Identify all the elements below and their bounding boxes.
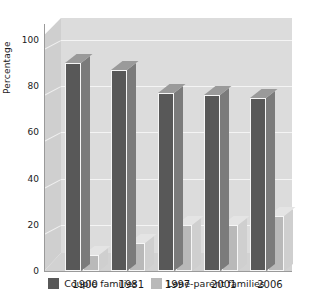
bar-2006-couple xyxy=(250,98,266,271)
legend-item-lone-parent-families[interactable]: Lone-parent families xyxy=(151,278,265,289)
legend-item-couple-families[interactable]: Couple families xyxy=(48,278,137,289)
bar-side-face xyxy=(192,218,201,271)
plot-area: 020406080100 19001981199720012006 xyxy=(44,18,292,258)
bar-side-face xyxy=(266,91,275,271)
bar-side-face xyxy=(127,63,136,271)
bar-side-face xyxy=(81,56,90,271)
legend-label: Couple families xyxy=(64,278,137,289)
y-axis-title: Percentage xyxy=(2,41,12,94)
y-tick-label: 20 xyxy=(28,220,39,229)
chart-legend: Couple familiesLone-parent families xyxy=(0,278,313,289)
bar-front-face xyxy=(158,93,174,271)
bar-2001-couple xyxy=(204,95,220,271)
gridline xyxy=(61,40,292,41)
bar-front-face xyxy=(250,98,266,271)
y-tick-label: 40 xyxy=(28,174,39,183)
y-tick-label: 0 xyxy=(33,267,39,276)
bar-chart: 020406080100 19001981199720012006 Percen… xyxy=(0,0,313,301)
bar-1997-couple xyxy=(158,93,174,271)
y-tick-label: 60 xyxy=(28,128,39,137)
bar-front-face xyxy=(65,63,81,271)
bar-1981-couple xyxy=(111,70,127,271)
bar-side-face xyxy=(238,218,247,271)
y-tick-label: 80 xyxy=(28,82,39,91)
bar-front-face xyxy=(111,70,127,271)
bar-1900-couple xyxy=(65,63,81,271)
y-tick-label: 100 xyxy=(22,36,39,45)
bar-front-face xyxy=(204,95,220,271)
legend-swatch-icon xyxy=(151,278,162,289)
x-axis-line xyxy=(44,271,292,272)
y-axis-line xyxy=(44,24,45,271)
bar-side-face xyxy=(284,209,293,271)
legend-swatch-icon xyxy=(48,278,59,289)
bar-side-face xyxy=(174,86,183,271)
legend-label: Lone-parent families xyxy=(167,278,265,289)
bar-side-face xyxy=(220,88,229,271)
